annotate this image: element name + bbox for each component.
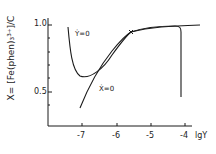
y-axis-label: X= [Fe(phen)₃³⁺]/C: [6, 16, 16, 101]
x-axis-label: lgY: [195, 131, 207, 140]
curve-label-xdot: Ẋ=0: [99, 85, 114, 93]
x-tick-label-minus6: -6: [112, 131, 120, 140]
y-tick-label-1.0: 1.0: [34, 19, 47, 28]
y-tick-label-0.5: 0.5: [34, 87, 47, 96]
y-axis-label-container: X= [Fe(phen)₃³⁺]/C: [2, 18, 20, 98]
y-ticks: [48, 25, 52, 105]
x-tick-label-minus5: -5: [146, 131, 154, 140]
curve-label-ydot: Ẏ=0: [75, 30, 90, 38]
curve-xdot-zero: [80, 25, 200, 108]
x-tick-label-minus7: -7: [77, 131, 85, 140]
chart: X= [Fe(phen)₃³⁺]/C 1.0 0.5 -7 -6 -5 -4 l…: [0, 0, 216, 154]
x-tick-label-minus4: -4: [180, 131, 188, 140]
